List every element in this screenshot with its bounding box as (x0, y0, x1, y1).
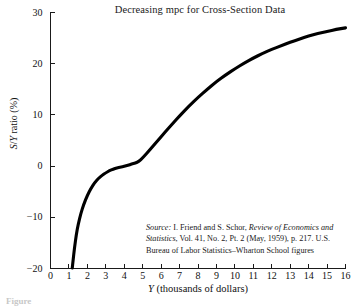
source-note-line2: , Vol. 41, No. 2, Pt. 2 (May, 1959), p. … (176, 234, 314, 243)
x-tick-label: 12 (262, 271, 282, 281)
x-tick-label: 6 (151, 271, 171, 281)
y-tick-label: −20 (13, 264, 43, 274)
y-axis-label-slash: / (8, 142, 19, 145)
y-axis-label: S/Y ratio (%) (8, 74, 19, 174)
x-axis-label-rest: (thousands of dollars) (154, 283, 248, 294)
y-axis-label-s: S (8, 144, 19, 149)
x-tick-label: 7 (170, 271, 190, 281)
y-axis-label-y: Y (8, 136, 19, 142)
x-tick-label: 15 (317, 271, 337, 281)
source-note-journal: Review of Economics (249, 223, 319, 232)
chart-title: Decreasing mpc for Cross-Section Data (60, 4, 340, 15)
y-tick-label: 0 (13, 161, 43, 171)
y-tick-label: 30 (13, 8, 43, 18)
x-tick-label: 1 (59, 271, 79, 281)
plot-area (0, 0, 358, 307)
figure-caption: Figure (6, 296, 31, 306)
x-tick-label: 10 (225, 271, 245, 281)
y-tick-label: 20 (13, 59, 43, 69)
x-tick-label: 3 (96, 271, 116, 281)
source-note-line1: I. Friend and S. Schor, (171, 223, 249, 232)
x-tick-label: 0 (41, 271, 61, 281)
x-tick-label: 14 (299, 271, 319, 281)
x-tick-label: 9 (206, 271, 226, 281)
y-tick-label: 10 (13, 110, 43, 120)
x-tick-label: 11 (243, 271, 263, 281)
source-note: Source: I. Friend and S. Schor, Review o… (146, 222, 354, 256)
x-tick-label: 2 (77, 271, 97, 281)
x-axis-label: Y (thousands of dollars) (50, 283, 346, 294)
x-tick-label: 4 (114, 271, 134, 281)
figure-container: Decreasing mpc for Cross-Section Data S/… (0, 0, 358, 307)
x-tick-label: 5 (133, 271, 153, 281)
x-tick-label: 8 (188, 271, 208, 281)
x-tick-label: 13 (280, 271, 300, 281)
source-note-label: Source: (146, 223, 171, 232)
y-tick-label: −10 (13, 212, 43, 222)
x-tick-label: 16 (336, 271, 356, 281)
